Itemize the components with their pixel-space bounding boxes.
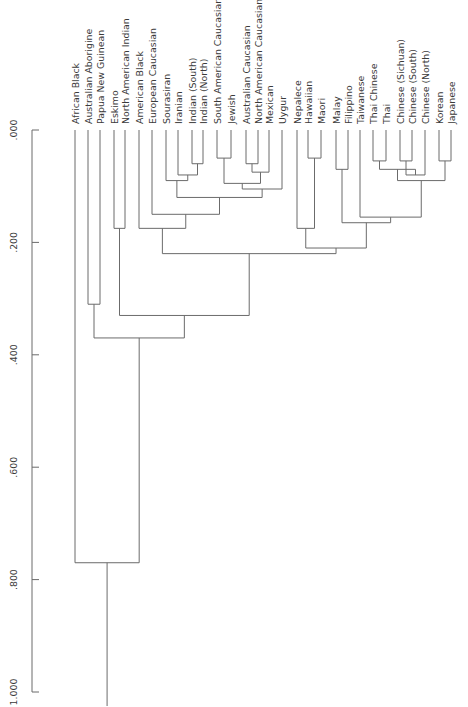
leaf-label: European Caucasian bbox=[147, 28, 158, 124]
leaf-label: Maori bbox=[316, 98, 327, 124]
branch-link bbox=[88, 130, 100, 304]
leaf-labels: African BlackAustralian AboriginePapua N… bbox=[70, 0, 457, 125]
branch-link bbox=[162, 228, 336, 253]
leaf-label: Australian Aborigine bbox=[83, 29, 94, 124]
axis-tick-label: .000 bbox=[8, 120, 19, 141]
branch-link bbox=[308, 130, 321, 158]
branch-link bbox=[139, 130, 186, 228]
leaf-label: Chinese (South) bbox=[407, 49, 418, 124]
leaf-label: Iranian bbox=[173, 91, 184, 124]
leaf-label: Filippino bbox=[343, 85, 354, 124]
branch-link bbox=[252, 130, 269, 172]
leaf-label: Hawaiian bbox=[303, 81, 314, 124]
branch-link bbox=[242, 130, 282, 189]
branch-link bbox=[166, 130, 188, 181]
axis-tick-label: .400 bbox=[8, 344, 19, 365]
leaf-label: Mexican bbox=[264, 85, 275, 124]
branch-link bbox=[192, 130, 203, 164]
leaf-label: Malay bbox=[331, 96, 342, 124]
leaf-label: Thai Chinese bbox=[368, 63, 379, 125]
axis-tick-label: 1.000 bbox=[8, 679, 19, 706]
branch-link bbox=[439, 130, 451, 161]
axis-tick-label: .200 bbox=[8, 232, 19, 253]
branch-link bbox=[114, 130, 125, 228]
branch-link bbox=[406, 130, 425, 175]
leaf-label: Japanese bbox=[446, 81, 457, 125]
value-axis: .000.200.400.600.8001.000 bbox=[8, 120, 39, 706]
branch-link bbox=[398, 161, 446, 181]
leaf-label: Eskimo bbox=[109, 90, 120, 124]
leaf-label: Korean bbox=[434, 91, 445, 124]
leaf-label: African Black bbox=[70, 62, 81, 124]
leaf-label: Uygur bbox=[277, 96, 288, 124]
branch-link bbox=[297, 130, 315, 228]
leaf-label: American Black bbox=[134, 50, 145, 124]
axis-tick-label: .800 bbox=[8, 569, 19, 590]
leaf-label: Chinese (Sichuan) bbox=[395, 39, 406, 124]
dendrogram-branches bbox=[75, 130, 451, 706]
branch-link bbox=[400, 130, 412, 161]
branch-link bbox=[178, 130, 198, 175]
branch-link bbox=[224, 158, 261, 183]
leaf-label: Papua New Guinean bbox=[95, 30, 106, 124]
leaf-label: Nepalece bbox=[292, 80, 303, 124]
leaf-label: Indian (South) bbox=[187, 58, 198, 125]
leaf-label: North American Indian bbox=[120, 18, 131, 124]
leaf-label: Thai bbox=[381, 104, 392, 125]
branch-link bbox=[152, 130, 220, 214]
branch-link bbox=[120, 228, 250, 315]
leaf-label: Taiwanese bbox=[355, 75, 366, 125]
branch-link bbox=[217, 130, 231, 158]
branch-link bbox=[75, 130, 139, 563]
axis-tick-label: .600 bbox=[8, 457, 19, 478]
leaf-label: Indian (North) bbox=[198, 59, 209, 124]
branch-link bbox=[373, 130, 386, 161]
branch-link bbox=[94, 304, 184, 338]
leaf-label: North American Caucasian bbox=[253, 0, 264, 124]
leaf-label: South American Caucasian bbox=[212, 0, 223, 124]
branch-link bbox=[336, 130, 348, 169]
leaf-label: Chinese (North) bbox=[420, 50, 431, 124]
branch-link bbox=[342, 169, 391, 222]
dendrogram-chart: .000.200.400.600.8001.000 African BlackA… bbox=[0, 0, 468, 707]
branch-link bbox=[246, 130, 258, 164]
leaf-label: Sourasiran bbox=[161, 74, 172, 124]
leaf-label: Jewish bbox=[226, 94, 237, 125]
leaf-label: Australian Caucasian bbox=[241, 25, 252, 124]
